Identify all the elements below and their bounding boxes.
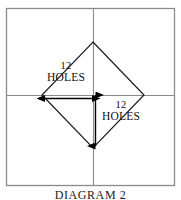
diagram-canvas (0, 0, 181, 200)
horizontal-dimension-value: 12 (42, 61, 90, 72)
horizontal-dimension-label: 12 HOLES (42, 61, 90, 83)
outer-frame (7, 9, 175, 186)
horizontal-dimension-unit: HOLES (42, 72, 90, 84)
vertical-dimension-label: 12 HOLES (97, 100, 145, 122)
vertical-dimension-unit: HOLES (97, 111, 145, 123)
vertical-dimension-value: 12 (97, 100, 145, 111)
figure-caption: DIAGRAM 2 (0, 188, 181, 200)
diagram-figure: 12 HOLES 12 HOLES DIAGRAM 2 (0, 0, 181, 200)
